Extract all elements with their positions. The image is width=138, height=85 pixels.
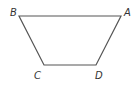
vertex-label-a: A <box>123 7 131 18</box>
trapezoid-diagram: B A D C <box>0 0 138 85</box>
trapezoid-shape <box>19 16 121 65</box>
vertex-label-b: B <box>10 7 17 18</box>
vertex-label-c: C <box>34 70 41 81</box>
vertex-label-d: D <box>95 70 103 81</box>
